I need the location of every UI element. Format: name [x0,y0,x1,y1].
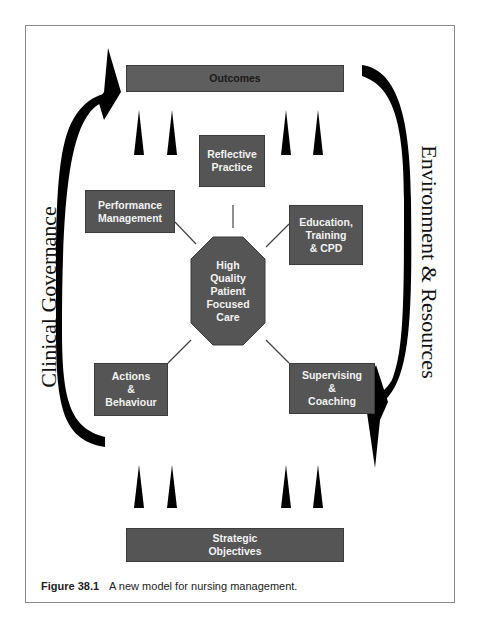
performance-management-box: Performance Management [85,190,175,233]
outcomes-label: Outcomes [209,72,260,85]
center-octagon-label-wrap: High Quality Patient Focused Care [191,237,265,345]
figure-caption-text: A new model for nursing management. [109,580,297,592]
upward-spikes-bottom [134,465,323,508]
actions-behaviour-label: Actions & Behaviour [105,370,156,409]
education-training-cpd-box: Education, Training & CPD [289,205,363,265]
reflective-practice-label: Reflective Practice [207,148,257,174]
figure-caption: Figure 38.1A new model for nursing manag… [41,580,297,592]
reflective-practice-box: Reflective Practice [199,135,265,187]
supervising-coaching-box: Supervising & Coaching [289,363,375,414]
connector-education [266,224,289,247]
outcomes-box: Outcomes [126,65,344,92]
strategic-objectives-box: Strategic Objectives [126,528,344,562]
education-training-cpd-label: Education, Training & CPD [299,216,353,255]
supervising-coaching-label: Supervising & Coaching [302,369,362,408]
figure-number: Figure 38.1 [41,580,99,592]
performance-management-label: Performance Management [98,199,162,225]
environment-resources-label: Environment & Resources [416,145,442,378]
center-octagon-label: High Quality Patient Focused Care [206,259,249,324]
strategic-objectives-label: Strategic Objectives [208,532,261,558]
clinical-governance-label: Clinical Governance [36,206,62,387]
connector-supervising [266,340,289,363]
connector-actions [168,340,191,363]
actions-behaviour-box: Actions & Behaviour [94,363,168,416]
